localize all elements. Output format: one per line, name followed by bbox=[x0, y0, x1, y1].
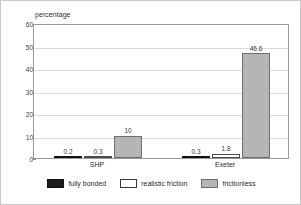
legend-item-fully-bonded[interactable]: fully bonded bbox=[47, 179, 106, 188]
legend-label: fully bonded bbox=[68, 180, 106, 187]
bar-fully-bonded-exeter bbox=[182, 156, 210, 158]
legend-label: frictionless bbox=[222, 180, 255, 187]
bar-value-label: 0.3 bbox=[191, 148, 200, 155]
legend-item-realistic-friction[interactable]: realistic friction bbox=[120, 179, 187, 188]
bar-realistic-friction-shp bbox=[84, 156, 112, 158]
plot-area: 0.20.3100.31.846.6 bbox=[33, 24, 289, 159]
chart-legend: fully bondedrealistic frictionfrictionle… bbox=[1, 179, 301, 188]
legend-swatch-icon bbox=[47, 179, 64, 188]
bar-frictionless-shp bbox=[114, 136, 142, 159]
bar-value-label: 46.6 bbox=[250, 45, 263, 52]
legend-swatch-icon bbox=[201, 179, 218, 188]
y-axis-tick-labels: 0102030405060 bbox=[1, 24, 33, 159]
chart-figure: percentage 0102030405060 0.20.3100.31.84… bbox=[0, 0, 301, 205]
y-axis-tick-label: 40 bbox=[11, 66, 33, 73]
bar-value-label: 0.3 bbox=[93, 148, 102, 155]
bar-value-label: 10 bbox=[124, 127, 131, 134]
y-axis-tick-mark bbox=[33, 159, 36, 160]
bar-frictionless-exeter bbox=[242, 53, 270, 158]
x-axis-category-label: SHP bbox=[90, 161, 104, 168]
legend-item-frictionless[interactable]: frictionless bbox=[201, 179, 255, 188]
bar-realistic-friction-exeter bbox=[212, 154, 240, 158]
bar-fully-bonded-shp bbox=[54, 156, 82, 158]
legend-label: realistic friction bbox=[141, 180, 187, 187]
y-axis-title: percentage bbox=[35, 11, 71, 18]
x-axis-category-label: Exeter bbox=[215, 161, 235, 168]
bar-value-label: 1.8 bbox=[221, 145, 230, 152]
y-axis-tick-label: 10 bbox=[11, 133, 33, 140]
y-axis-tick-label: 20 bbox=[11, 111, 33, 118]
y-axis-tick-label: 30 bbox=[11, 88, 33, 95]
bar-value-label: 0.2 bbox=[63, 148, 72, 155]
legend-swatch-icon bbox=[120, 179, 137, 188]
y-axis-tick-label: 60 bbox=[11, 21, 33, 28]
y-axis-tick-label: 50 bbox=[11, 43, 33, 50]
y-axis-tick-label: 0 bbox=[11, 156, 33, 163]
